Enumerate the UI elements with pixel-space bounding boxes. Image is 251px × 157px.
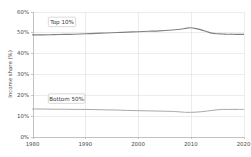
series-label-top-10: Top 10% <box>48 17 75 27</box>
x-tick-label: 2010 <box>184 141 198 147</box>
chart-figure: 0%10%20%30%40%50%60% 1980199020002010202… <box>0 0 251 157</box>
income-share-line-chart: 0%10%20%30%40%50%60% 1980199020002010202… <box>0 0 251 157</box>
x-tick-label: 1980 <box>26 141 40 147</box>
x-tick-label: 2020 <box>237 141 251 147</box>
y-tick-label: 0% <box>20 134 29 140</box>
x-tick-label: 2000 <box>131 141 145 147</box>
series-label-text: Bottom 50% <box>49 96 84 102</box>
y-tick-label: 40% <box>17 50 29 56</box>
y-tick-label: 20% <box>17 92 29 98</box>
y-tick-label: 30% <box>17 71 29 77</box>
y-tick-label: 60% <box>17 9 29 15</box>
x-tick-label: 1990 <box>78 141 92 147</box>
y-tick-label: 50% <box>17 29 29 35</box>
y-tick-label: 10% <box>17 113 29 119</box>
y-axis-title: Income share (%) <box>7 50 13 98</box>
plot-area-background <box>33 12 244 137</box>
series-label-bottom-50: Bottom 50% <box>48 94 84 104</box>
series-label-text: Top 10% <box>49 19 74 26</box>
